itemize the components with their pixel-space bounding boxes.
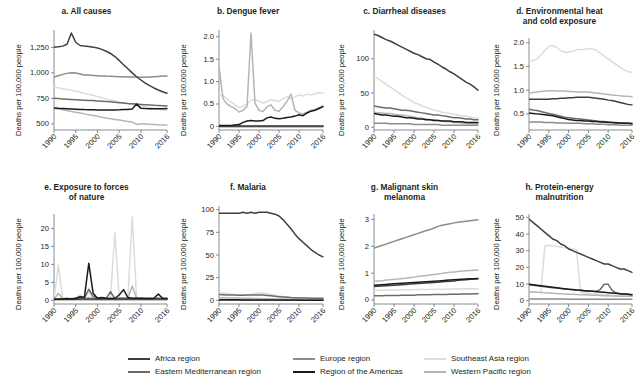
y-tick-label: 50 <box>516 213 524 222</box>
plot-area-h: 01020304050199019952000200520102016 <box>482 182 637 347</box>
plot-area-e: 05101520199019952000200520102016 <box>4 182 169 347</box>
x-tick-label: 2010 <box>127 132 145 150</box>
series-line <box>529 97 632 105</box>
x-tick-label: 1995 <box>380 306 398 324</box>
legend-item[interactable]: Region of the Americas <box>293 367 403 377</box>
legend-item[interactable]: Eastern Mediterranean region <box>128 367 261 377</box>
legend-label: Africa region <box>155 354 200 364</box>
chart-panel-e: e. Exposure to forcesof natureDeaths per… <box>4 182 169 347</box>
y-tick-label: 1.5 <box>513 62 524 71</box>
plot-wrapper-e: 05101520199019952000200520102016 <box>4 182 169 347</box>
x-tick-label: 2005 <box>575 306 593 324</box>
legend-label: Southeast Asia region <box>451 354 529 364</box>
plot-wrapper-b: 00.51.01.52.0199019952000200520102016 <box>169 6 327 174</box>
y-tick-label: 0 <box>365 295 369 304</box>
y-tick-label: 30 <box>516 246 524 255</box>
x-tick-label: 1995 <box>535 306 553 324</box>
x-tick-label: 2016 <box>464 306 482 324</box>
legend-swatch-icon <box>293 371 315 373</box>
y-tick-label: 10 <box>516 280 524 289</box>
series-line <box>374 77 478 119</box>
plot-wrapper-f: 0255075100199019952000200520102016 <box>169 182 327 347</box>
x-tick-label: 2000 <box>555 306 573 324</box>
legend-item[interactable]: Western Pacific region <box>424 367 531 377</box>
plot-area-d: 0.51.01.52.0199019952000200520102016 <box>482 6 637 174</box>
y-tick-label: 2 <box>365 242 369 251</box>
y-tick-label: 1 <box>365 269 369 278</box>
x-tick-label: 1995 <box>62 306 80 324</box>
legend-item[interactable]: Southeast Asia region <box>424 354 529 364</box>
y-tick-label: 1,000 <box>30 68 49 77</box>
series-line <box>219 107 323 126</box>
y-tick-label: 1,250 <box>30 43 49 52</box>
y-tick-label: 15 <box>41 242 49 251</box>
series-line <box>374 220 478 248</box>
plot-wrapper-h: 01020304050199019952000200520102016 <box>482 182 637 347</box>
legend-swatch-icon <box>424 371 446 373</box>
series-line <box>54 33 167 93</box>
plot-wrapper-g: 0123199019952000200520102016 <box>327 182 482 347</box>
y-tick-label: 2.0 <box>513 38 524 47</box>
x-tick-label: 1995 <box>380 132 398 150</box>
y-tick-label: 0 <box>520 296 524 305</box>
plot-wrapper-d: 0.51.01.52.0199019952000200520102016 <box>482 6 637 174</box>
legend-swatch-icon <box>128 358 150 360</box>
series-line <box>529 46 632 73</box>
x-tick-label: 2010 <box>594 132 612 150</box>
y-tick-label: 10 <box>41 260 49 269</box>
y-tick-label: 75 <box>206 228 214 237</box>
legend-swatch-icon <box>128 371 150 373</box>
chart-panel-g: g. Malignant skinmelanomaDeaths per 100,… <box>327 182 482 347</box>
chart-panel-a: a. All causesDeaths per 100,000 people50… <box>4 6 169 174</box>
x-tick-label: 2010 <box>594 306 612 324</box>
x-tick-label: 2000 <box>84 132 102 150</box>
x-tick-label: 2016 <box>309 132 327 150</box>
legend-item[interactable]: Europe region <box>293 354 370 364</box>
series-line <box>374 289 478 291</box>
plot-wrapper-a: 5007501,0001,250199019952000200520102016 <box>4 6 169 174</box>
y-tick-label: 25 <box>206 273 214 282</box>
x-tick-label: 2005 <box>575 132 593 150</box>
x-tick-label: 1990 <box>40 132 58 150</box>
legend-label: Europe region <box>320 354 370 364</box>
y-tick-label: 50 <box>361 89 369 98</box>
y-tick-label: 3 <box>365 215 369 224</box>
y-tick-label: 0 <box>365 123 369 132</box>
series-line <box>529 245 632 296</box>
series-line <box>374 34 478 90</box>
chart-panel-c: c. Diarrheal diseasesDeaths per 100,000 … <box>327 6 482 174</box>
x-tick-label: 2010 <box>285 306 303 324</box>
y-tick-label: 100 <box>201 205 214 214</box>
series-line <box>219 33 323 114</box>
series-line <box>529 91 632 97</box>
x-tick-label: 2010 <box>440 306 458 324</box>
x-tick-label: 2000 <box>84 306 102 324</box>
x-tick-label: 2005 <box>420 306 438 324</box>
y-tick-label: 1.5 <box>203 55 214 64</box>
x-tick-label: 2005 <box>105 132 123 150</box>
x-tick-label: 1990 <box>360 132 378 150</box>
plot-area-g: 0123199019952000200520102016 <box>327 182 482 347</box>
series-line <box>54 217 167 299</box>
x-tick-label: 2016 <box>618 306 636 324</box>
y-tick-label: 50 <box>206 251 214 260</box>
x-tick-label: 1995 <box>225 306 243 324</box>
y-tick-label: 0 <box>210 296 214 305</box>
y-tick-label: 500 <box>36 119 49 128</box>
x-tick-label: 2000 <box>400 132 418 150</box>
y-tick-label: 0 <box>210 122 214 131</box>
y-tick-label: 0.5 <box>513 109 524 118</box>
y-tick-label: 0 <box>45 296 49 305</box>
legend-item[interactable]: Africa region <box>128 354 200 364</box>
x-tick-label: 2000 <box>245 132 263 150</box>
x-tick-label: 1990 <box>515 132 533 150</box>
chart-legend: Africa regionEurope regionSoutheast Asia… <box>0 348 637 388</box>
chart-panel-d: d. Environmental heatand cold exposureDe… <box>482 6 637 174</box>
plot-area-f: 0255075100199019952000200520102016 <box>169 182 327 347</box>
chart-panel-b: b. Dengue feverDeaths per 100,000 people… <box>169 6 327 174</box>
x-tick-label: 2000 <box>245 306 263 324</box>
x-tick-label: 2005 <box>420 132 438 150</box>
y-tick-label: 100 <box>356 54 369 63</box>
legend-label: Region of the Americas <box>320 367 403 377</box>
y-tick-label: 40 <box>516 230 524 239</box>
